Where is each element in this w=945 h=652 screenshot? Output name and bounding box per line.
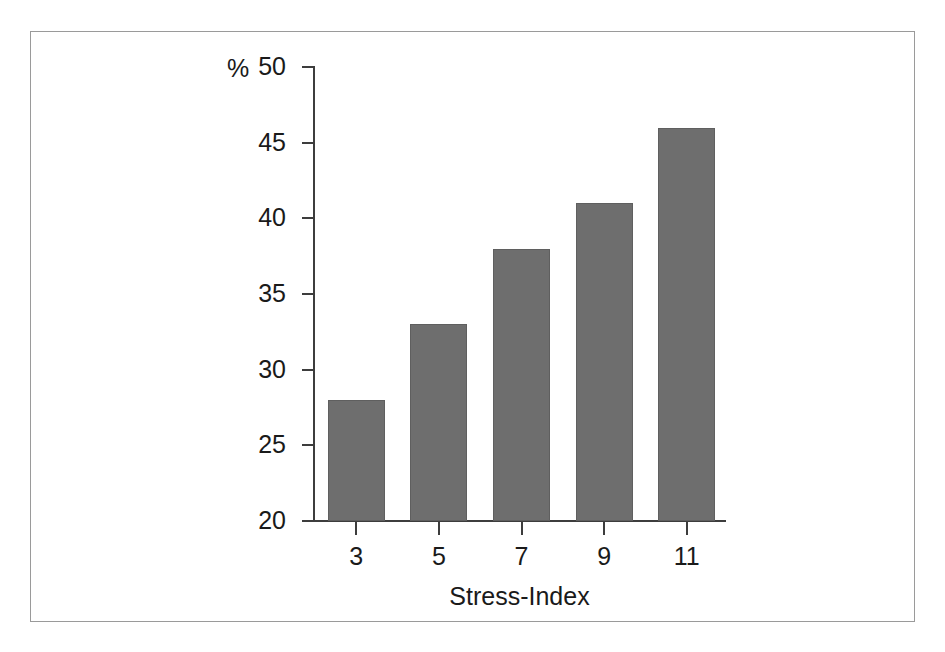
y-axis-tick bbox=[302, 520, 313, 522]
y-axis-tick-label: 50 bbox=[226, 54, 286, 79]
chart-plot-area: % 20253035404550 357911 Stress-Index bbox=[31, 32, 916, 623]
y-axis-tick-label: 35 bbox=[226, 281, 286, 306]
bar bbox=[493, 249, 550, 521]
x-axis-tick-label: 5 bbox=[409, 542, 469, 570]
x-axis-tick-label: 3 bbox=[326, 542, 386, 570]
x-axis-tick-label: 11 bbox=[657, 542, 717, 570]
bar bbox=[328, 400, 385, 521]
x-axis-tick bbox=[521, 522, 523, 535]
bar bbox=[410, 324, 467, 521]
y-axis-tick bbox=[302, 293, 313, 295]
x-axis-title: Stress-Index bbox=[313, 583, 726, 610]
bar bbox=[576, 203, 633, 521]
y-axis-tick bbox=[302, 369, 313, 371]
y-axis-line bbox=[313, 66, 315, 522]
figure-frame: % 20253035404550 357911 Stress-Index bbox=[30, 31, 915, 622]
x-axis-tick-label: 7 bbox=[492, 542, 552, 570]
y-axis-tick bbox=[302, 217, 313, 219]
y-axis-tick-label: 20 bbox=[226, 508, 286, 533]
x-axis-tick bbox=[438, 522, 440, 535]
y-axis-tick-label: 40 bbox=[226, 205, 286, 230]
y-axis-tick-label: 30 bbox=[226, 357, 286, 382]
y-axis-tick bbox=[302, 142, 313, 144]
x-axis-tick-label: 9 bbox=[574, 542, 634, 570]
x-axis-tick bbox=[355, 522, 357, 535]
x-axis-tick bbox=[686, 522, 688, 535]
y-axis-tick-label: 25 bbox=[226, 432, 286, 457]
bar bbox=[658, 128, 715, 521]
y-axis-tick-label: 45 bbox=[226, 130, 286, 155]
y-axis-tick bbox=[302, 66, 313, 68]
y-axis-tick bbox=[302, 444, 313, 446]
x-axis-tick bbox=[603, 522, 605, 535]
